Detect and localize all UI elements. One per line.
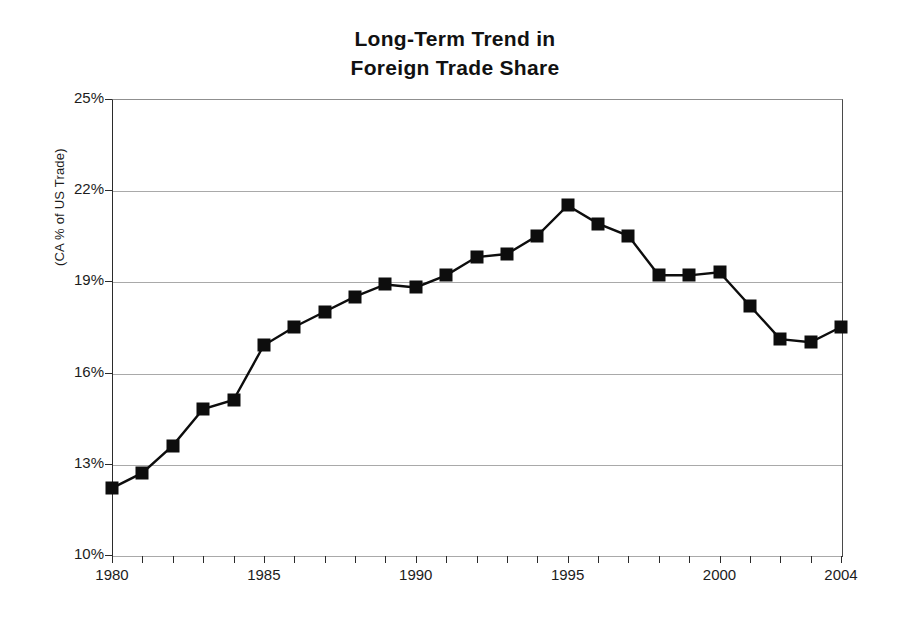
data-point-marker — [409, 281, 422, 294]
data-point-marker — [379, 278, 392, 291]
x-axis-tick-mark — [294, 556, 295, 563]
x-axis-tick-mark — [203, 556, 204, 563]
x-axis-tick-mark — [385, 556, 386, 563]
y-axis-tick-label: 22% — [0, 180, 104, 197]
y-axis-tick-label: 25% — [0, 89, 104, 106]
x-axis-tick-label: 1990 — [399, 566, 432, 583]
data-point-marker — [166, 439, 179, 452]
x-axis-tick-mark — [173, 556, 174, 563]
x-axis-tick-mark — [355, 556, 356, 563]
data-point-marker — [652, 269, 665, 282]
x-axis-tick-mark — [234, 556, 235, 563]
x-axis-tick-mark — [689, 556, 690, 563]
chart-title-line-1: Long-Term Trend in — [354, 27, 555, 50]
data-point-marker — [197, 403, 210, 416]
x-axis-tick-mark — [568, 556, 569, 563]
x-axis-tick-mark — [142, 556, 143, 563]
y-axis-tick-label: 16% — [0, 363, 104, 380]
x-axis-tick-label: 2004 — [824, 566, 857, 583]
data-point-marker — [622, 229, 635, 242]
plot-area — [112, 99, 843, 557]
x-axis-tick-mark — [811, 556, 812, 563]
x-axis-tick-mark — [841, 556, 842, 563]
y-axis-tick-label: 13% — [0, 454, 104, 471]
y-axis-tick-label: 19% — [0, 271, 104, 288]
y-axis-tick-labels: 25%22%19%16%13%10% — [0, 0, 104, 630]
x-axis-tick-mark — [537, 556, 538, 563]
gridline — [113, 191, 842, 192]
data-point-marker — [106, 482, 119, 495]
chart-title: Long-Term Trend in Foreign Trade Share — [0, 24, 910, 82]
data-point-marker — [500, 248, 513, 261]
y-axis-tick-label: 10% — [0, 545, 104, 562]
data-point-marker — [288, 321, 301, 334]
gridline — [113, 465, 842, 466]
gridline — [113, 374, 842, 375]
data-point-marker — [713, 266, 726, 279]
x-axis-tick-mark — [416, 556, 417, 563]
data-point-marker — [561, 199, 574, 212]
gridline — [113, 282, 842, 283]
data-point-marker — [349, 290, 362, 303]
x-axis-tick-mark — [750, 556, 751, 563]
x-axis-tick-label: 1980 — [95, 566, 128, 583]
data-point-marker — [683, 269, 696, 282]
data-point-marker — [743, 299, 756, 312]
x-axis-tick-mark — [477, 556, 478, 563]
data-point-marker — [835, 321, 848, 334]
x-axis-tick-mark — [628, 556, 629, 563]
gridline — [113, 556, 842, 557]
x-axis-tick-mark — [446, 556, 447, 563]
data-point-marker — [136, 466, 149, 479]
x-axis-tick-mark — [325, 556, 326, 563]
x-axis-tick-mark — [264, 556, 265, 563]
x-axis-tick-label: 1995 — [551, 566, 584, 583]
data-point-marker — [318, 305, 331, 318]
data-point-marker — [774, 333, 787, 346]
data-point-marker — [257, 339, 270, 352]
data-point-marker — [227, 393, 240, 406]
x-axis-tick-mark — [112, 556, 113, 563]
x-axis-tick-mark — [507, 556, 508, 563]
data-point-marker — [592, 217, 605, 230]
chart-title-line-2: Foreign Trade Share — [0, 53, 910, 82]
data-point-marker — [470, 251, 483, 264]
data-point-marker — [531, 229, 544, 242]
x-axis-tick-mark — [598, 556, 599, 563]
data-point-marker — [440, 269, 453, 282]
x-axis-tick-label: 2000 — [703, 566, 736, 583]
x-axis-tick-mark — [780, 556, 781, 563]
x-axis-tick-label: 1985 — [247, 566, 280, 583]
x-axis-tick-mark — [659, 556, 660, 563]
chart-container: Long-Term Trend in Foreign Trade Share (… — [0, 0, 910, 630]
x-axis-tick-mark — [720, 556, 721, 563]
data-point-marker — [804, 336, 817, 349]
